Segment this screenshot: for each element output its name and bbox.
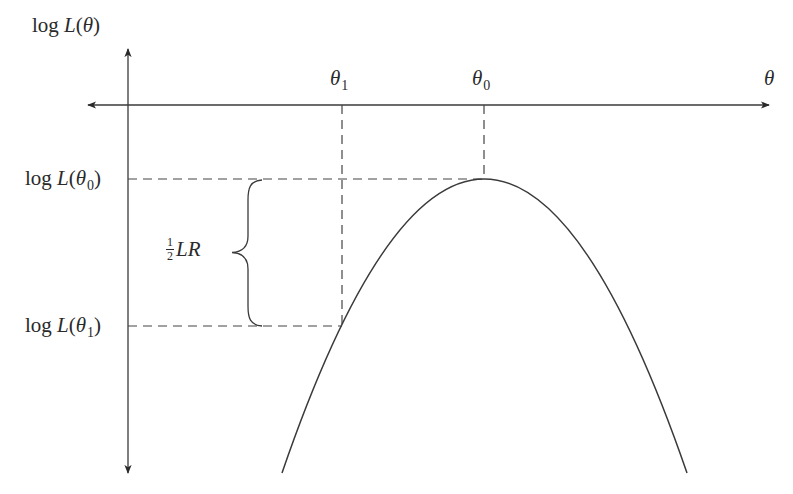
y-axis-title: log L(θ) xyxy=(32,15,100,36)
function-symbol: L xyxy=(57,166,69,190)
log-text: log xyxy=(25,166,57,190)
half-lr-label: 12LR xyxy=(166,238,201,264)
function-symbol: L xyxy=(57,313,69,337)
theta0-tick-label: θ0 xyxy=(472,68,490,89)
fraction-denominator: 2 xyxy=(166,250,174,263)
paren-close: ) xyxy=(94,313,101,337)
theta-symbol: θ xyxy=(330,66,340,90)
log-likelihood-curve xyxy=(282,179,687,473)
theta-symbol: θ xyxy=(76,313,86,337)
paren-open: ( xyxy=(76,13,83,37)
theta-symbol: θ xyxy=(472,66,482,90)
log-text: log xyxy=(25,313,57,337)
subscript: 0 xyxy=(87,178,94,193)
subscript: 1 xyxy=(87,325,94,340)
subscript: 0 xyxy=(483,78,490,93)
paren-close: ) xyxy=(93,13,100,37)
one-half-fraction: 12 xyxy=(166,236,174,262)
log-text: log xyxy=(32,13,64,37)
log-likelihood-diagram xyxy=(0,0,793,494)
fraction-numerator: 1 xyxy=(166,236,174,250)
lr-text: LR xyxy=(176,237,201,261)
log-l-theta1-tick-label: log L(θ1) xyxy=(25,315,101,336)
likelihood-ratio-brace xyxy=(232,180,262,326)
log-l-theta0-tick-label: log L(θ0) xyxy=(25,168,101,189)
paren-close: ) xyxy=(94,166,101,190)
theta-symbol: θ xyxy=(76,166,86,190)
function-symbol: L xyxy=(64,13,76,37)
theta1-tick-label: θ1 xyxy=(330,68,348,89)
x-axis-title: θ xyxy=(764,68,774,89)
paren-open: ( xyxy=(69,166,76,190)
theta-symbol: θ xyxy=(83,13,93,37)
paren-open: ( xyxy=(69,313,76,337)
subscript: 1 xyxy=(341,78,348,93)
